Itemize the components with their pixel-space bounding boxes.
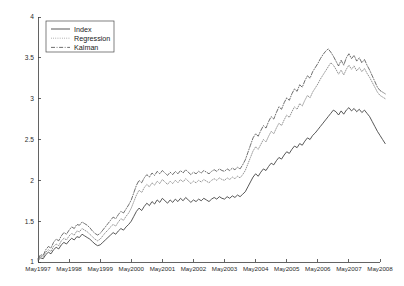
y-tick-label: 2 [30,177,34,184]
series-line-kalman [38,49,385,259]
x-tick-label: May2006 [305,265,331,272]
y-tick-label: 2.5 [25,136,34,143]
y-tick-label: 3 [30,95,34,102]
legend-label-kalman: Kalman [74,43,98,52]
chart-figure: 11.522.533.54 May1997May1998May1999May20… [0,0,404,286]
series-line-index [38,108,385,261]
x-axis: May1997May1998May1999May2000May2001May20… [25,259,393,272]
x-tick-label: May1999 [87,265,113,272]
chart-legend: IndexRegressionKalman [46,21,114,52]
x-tick-label: May2001 [150,265,176,272]
legend-label-regression: Regression [74,34,110,43]
y-tick-label: 4 [30,13,34,20]
x-tick-label: May2003 [212,265,238,272]
x-tick-label: May2005 [274,265,300,272]
x-tick-label: May2002 [181,265,207,272]
legend-label-index: Index [74,25,92,34]
y-tick-label: 3.5 [25,54,34,61]
x-tick-label: May1998 [56,265,82,272]
line-chart-canvas: 11.522.533.54 May1997May1998May1999May20… [0,0,404,286]
x-tick-label: May2007 [336,265,362,272]
x-tick-label: May2004 [243,265,269,272]
x-tick-label: May1997 [25,265,51,272]
y-tick-label: 1.5 [25,218,34,225]
x-tick-label: May2000 [119,265,145,272]
series-line-regression [38,63,385,260]
data-series-group [38,49,385,261]
y-axis: 11.522.533.54 [25,13,41,265]
x-tick-label: May2008 [367,265,393,272]
